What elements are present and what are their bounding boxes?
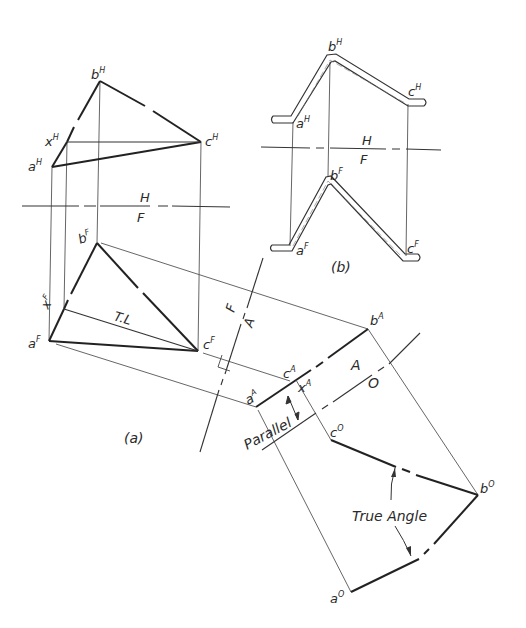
- svg-text:aF: aF: [296, 242, 309, 258]
- plane-label-f-b: F: [360, 152, 368, 167]
- fold-label-f: F: [223, 302, 240, 314]
- svg-text:cH: cH: [205, 133, 218, 149]
- svg-text:bA: bA: [370, 312, 384, 328]
- svg-text:xF: xF: [36, 292, 57, 312]
- plane-label-h: H: [140, 190, 150, 205]
- auxiliary-view-labels: bA cA xA aA: [242, 312, 384, 408]
- svg-text:xH: xH: [44, 133, 59, 149]
- plane-label-f: F: [137, 210, 145, 225]
- fold-line-h-f-a: [22, 206, 230, 207]
- view-b: H F bH cH aH bF cF aF (b): [261, 38, 441, 275]
- svg-text:xA: xA: [297, 379, 311, 395]
- descriptive-geometry-figure: H F bH cH xH aH T.L: [0, 0, 526, 628]
- view-b-labels: bH cH aH bF cF aF: [296, 38, 421, 258]
- svg-text:bH: bH: [91, 66, 105, 82]
- svg-text:bO: bO: [480, 480, 495, 496]
- front-view-triangle: [49, 243, 198, 351]
- fold-line-h-f-b: [261, 147, 441, 150]
- plane-label-h-b: H: [362, 133, 372, 148]
- view-a-caption: (a): [124, 430, 144, 446]
- svg-text:cF: cF: [203, 336, 215, 352]
- view-b-caption: (b): [331, 259, 351, 275]
- fold-label-a: A: [240, 316, 257, 330]
- svg-text:aH: aH: [28, 158, 42, 174]
- view-a: H F bH cH xH aH T.L: [22, 66, 495, 606]
- top-view-triangle: [52, 81, 201, 167]
- projection-lines-b: [290, 62, 408, 256]
- front-view-labels: bF cF xF aF: [28, 227, 215, 352]
- fold-label-o: O: [368, 375, 379, 391]
- parallel-arrow-icon: [286, 396, 299, 420]
- projection-lines-f-a: [56, 243, 368, 407]
- svg-text:cH: cH: [408, 83, 421, 99]
- svg-text:cA: cA: [283, 365, 296, 381]
- svg-text:bF: bF: [76, 227, 94, 247]
- top-view-wire: [272, 54, 427, 123]
- svg-text:cO: cO: [330, 424, 343, 440]
- svg-text:bH: bH: [328, 38, 342, 54]
- fold-label-a2: A: [350, 357, 361, 373]
- svg-text:aH: aH: [296, 115, 310, 131]
- true-angle-label: True Angle: [352, 508, 427, 524]
- svg-text:aO: aO: [330, 590, 344, 606]
- svg-text:aF: aF: [28, 335, 41, 351]
- front-view-wire: [271, 176, 421, 261]
- svg-text:bF: bF: [330, 167, 343, 183]
